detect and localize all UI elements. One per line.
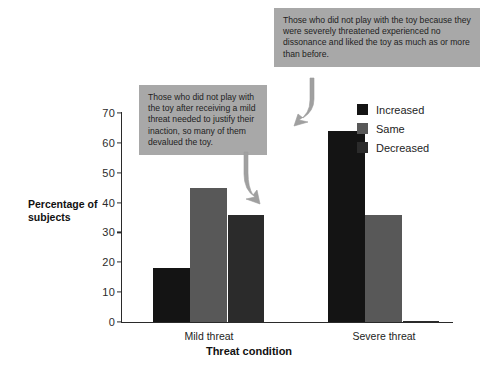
x-axis-title: Threat condition <box>206 345 292 357</box>
x-tick-label-mild-threat: Mild threat <box>184 330 233 342</box>
y-tick-mark <box>117 232 122 233</box>
bar-mild-threat-same <box>190 188 227 322</box>
severe-threat-callout-arrow <box>292 78 332 128</box>
y-tick-mark <box>117 202 122 203</box>
legend-swatch-same <box>357 123 368 134</box>
mild-threat-callout-arrow <box>230 152 270 204</box>
x-tick-label-severe-threat: Severe threat <box>352 330 415 342</box>
bar-mild-threat-increased <box>153 268 190 322</box>
bar-severe-threat-same <box>365 215 402 322</box>
y-tick-mark <box>117 292 122 293</box>
bar-severe-threat-increased <box>328 131 365 322</box>
legend-item-increased[interactable]: Increased <box>357 100 429 119</box>
y-axis-title-line-2: subjects <box>28 211 116 224</box>
mild-threat-callout: Those who did not play with the toy afte… <box>139 85 267 155</box>
legend-label: Increased <box>376 104 424 116</box>
legend-item-decreased[interactable]: Decreased <box>357 138 429 157</box>
bar-severe-threat-decreased <box>403 321 440 322</box>
legend-item-same[interactable]: Same <box>357 119 429 138</box>
y-tick-mark <box>117 172 122 173</box>
y-tick-mark <box>117 262 122 263</box>
y-tick-mark <box>117 321 122 322</box>
legend-label: Same <box>376 123 405 135</box>
y-tick-mark <box>117 112 122 113</box>
bar-chart-figure: Percentage of subjects 010203040506070 M… <box>0 0 499 369</box>
bar-mild-threat-decreased <box>228 215 265 322</box>
severe-threat-callout: Those who did not play with the toy beca… <box>274 8 480 67</box>
y-tick-mark <box>117 142 122 143</box>
legend-swatch-increased <box>357 104 368 115</box>
chart-legend: IncreasedSameDecreased <box>357 100 429 157</box>
legend-label: Decreased <box>376 142 429 154</box>
legend-swatch-decreased <box>357 142 368 153</box>
